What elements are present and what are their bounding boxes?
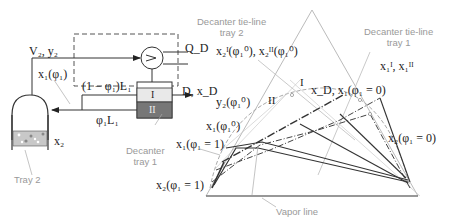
vapor-line xyxy=(212,114,410,188)
xD-label: x_D, x₁(φ₁ = 0) xyxy=(311,84,386,96)
y2-phi10-label: y₂(φ₁⁰) xyxy=(216,96,250,108)
decanter-phase-II-label: II xyxy=(149,105,156,115)
vapor-line-caption: Vapor line xyxy=(276,207,318,218)
vapor-stream-label: V₂, y₂ xyxy=(29,45,58,57)
x1-phi1-label: x₁(φ₁ = 1) xyxy=(176,138,224,150)
x1-phi10-label: x₁(φ₁⁰) xyxy=(206,120,240,132)
decanter-phase-I xyxy=(137,88,172,102)
tray2-liquid-label: x₂ xyxy=(54,135,64,147)
tray2-phase-points-label: x₂ᴵ(φ₁⁰), x₂ᴵᴵ(φ₁⁰) xyxy=(216,45,298,57)
x2-phi1-label: x₂(φ₁ = 1) xyxy=(156,179,204,191)
tray2-caption: Tray 2 xyxy=(14,175,41,186)
condenser-duty-label: Q_D xyxy=(185,42,208,54)
tray1-phase-points-label: x₁ᴵ, x₁ᴵᴵ xyxy=(380,60,414,72)
reflux-phase-I-label: (1 − φ₁)L₁ xyxy=(82,80,131,92)
x2-phi0-label: x₂(φ₁ = 0) xyxy=(388,132,436,144)
region-I-label: I xyxy=(300,77,304,88)
condenser xyxy=(141,47,163,69)
region-II-label: II xyxy=(268,95,275,106)
decanter-phase-I-label: I xyxy=(151,90,154,100)
tieline-tray2-caption: Decanter tie-line tray 2 xyxy=(197,17,266,39)
tieline-tray1 xyxy=(318,52,370,175)
distillate-label: D, x_D xyxy=(182,85,217,97)
tray1-liquid-label: x₁(φ₁) xyxy=(38,68,67,80)
reflux-phase-II-label: φ₁L₁ xyxy=(96,114,119,126)
decanter-caption: Decanter tray 1 xyxy=(126,146,165,168)
tieline-tray1-caption: Decanter tie-line tray 1 xyxy=(364,27,433,49)
